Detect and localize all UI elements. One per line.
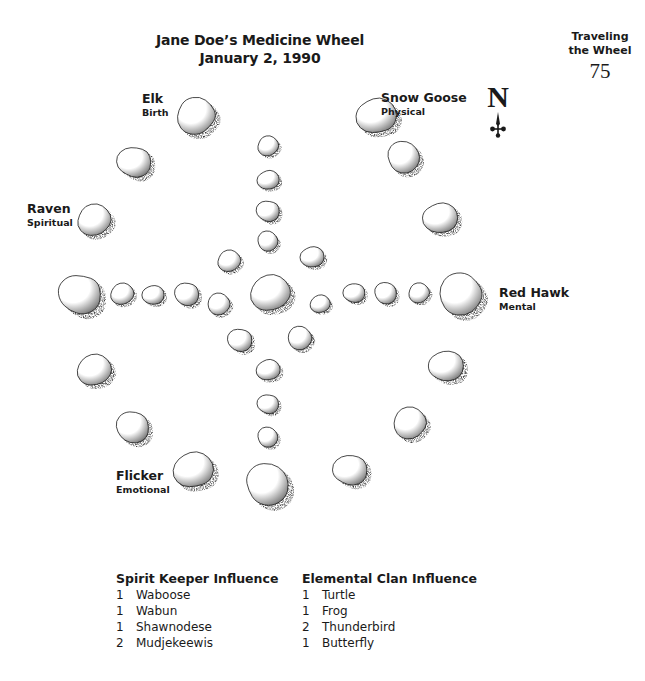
label-snow-goose-name: Snow Goose [381, 92, 467, 105]
stone-spoke-north [258, 231, 281, 254]
spirit-keeper-title: Spirit Keeper Influence [116, 571, 278, 587]
label-flicker-aspect: Emotional [116, 485, 170, 495]
stone-outer [77, 354, 116, 389]
label-raven: Raven Spiritual [27, 203, 73, 227]
label-red-hawk-name: Red Hawk [499, 287, 569, 300]
label-elk: Elk Birth [142, 93, 169, 117]
label-red-hawk: Red Hawk Mental [499, 287, 569, 311]
stone-outer-west [58, 276, 106, 320]
label-elk-name: Elk [142, 93, 169, 106]
stone-spoke-south [258, 427, 281, 450]
list-item: 1 Turtle [302, 587, 477, 603]
label-snow-goose-aspect: Physical [381, 107, 467, 117]
list-item: 1 Waboose [116, 587, 278, 603]
label-elk-aspect: Birth [142, 108, 169, 118]
stone-center [250, 274, 295, 315]
list-item: 1 Shawnodese [116, 619, 278, 635]
influence-name: Mudjekeewis [136, 635, 213, 651]
stone-spoke-west [111, 283, 137, 307]
stone-spoke-east [375, 282, 400, 306]
stone-spoke-south [257, 395, 281, 416]
stone-spoke-north [257, 170, 282, 191]
influence-name: Thunderbird [322, 619, 395, 635]
stone-outer [117, 148, 156, 182]
influence-name: Frog [322, 603, 348, 619]
influence-name: Waboose [136, 587, 190, 603]
list-item: 2 Thunderbird [302, 619, 477, 635]
influence-name: Wabun [136, 603, 177, 619]
medicine-wheel-diagram [0, 0, 645, 560]
influence-count: 1 [116, 587, 136, 603]
stone-outer-east [440, 273, 488, 321]
stone-inner-ring [300, 247, 327, 270]
elemental-clan-title: Elemental Clan Influence [302, 571, 477, 587]
stone-outer [428, 351, 468, 385]
influence-name: Butterfly [322, 635, 374, 651]
stone-outer [177, 97, 220, 139]
influence-count: 1 [302, 603, 322, 619]
stone-outer [116, 412, 153, 447]
stone-inner-ring [218, 250, 244, 275]
stone-spoke-north [258, 136, 282, 159]
elemental-clan-influence: Elemental Clan Influence 1 Turtle 1 Frog… [302, 571, 477, 651]
stone-outer [394, 407, 431, 443]
stone-spoke-east [409, 283, 433, 306]
stone-inner-ring [227, 329, 255, 354]
label-raven-aspect: Spiritual [27, 218, 73, 228]
stone-outer [173, 452, 219, 492]
stone-spoke-north [256, 201, 282, 224]
stone-outer-south [247, 464, 294, 511]
stones-layer [58, 97, 488, 511]
stone-spoke-west [142, 286, 167, 307]
spirit-keeper-influence: Spirit Keeper Influence 1 Waboose 1 Wabu… [116, 571, 278, 651]
stone-outer [388, 141, 424, 177]
list-item: 1 Frog [302, 603, 477, 619]
influence-count: 1 [302, 587, 322, 603]
stone-spoke-west [175, 283, 202, 309]
stone-spoke-east [310, 295, 333, 315]
stone-outer [332, 456, 371, 490]
influence-name: Turtle [322, 587, 355, 603]
stone-inner-ring [288, 326, 315, 353]
label-snow-goose: Snow Goose Physical [381, 92, 467, 116]
label-raven-name: Raven [27, 203, 73, 216]
influence-count: 1 [116, 619, 136, 635]
list-item: 1 Wabun [116, 603, 278, 619]
stone-outer [78, 204, 116, 240]
label-red-hawk-aspect: Mental [499, 302, 569, 312]
stone-spoke-west [208, 293, 233, 318]
stone-spoke-east [343, 284, 368, 305]
label-flicker: Flicker Emotional [116, 470, 170, 494]
list-item: 2 Mudjekeewis [116, 635, 278, 651]
influence-count: 1 [302, 635, 322, 651]
influence-count: 2 [116, 635, 136, 651]
stone-spoke-south [256, 359, 283, 382]
influence-name: Shawnodese [136, 619, 212, 635]
list-item: 1 Butterfly [302, 635, 477, 651]
influence-count: 1 [116, 603, 136, 619]
stone-outer [422, 203, 462, 237]
influence-count: 2 [302, 619, 322, 635]
label-flicker-name: Flicker [116, 470, 170, 483]
